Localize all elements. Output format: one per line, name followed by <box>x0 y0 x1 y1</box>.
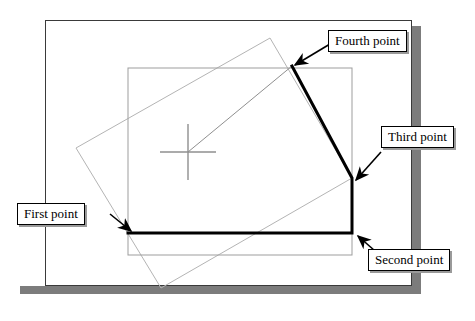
rubber-band-line <box>188 66 292 152</box>
drawn-polyline <box>128 66 352 233</box>
figure-screenshot: Fourth point Third point Second point Fi… <box>0 0 475 321</box>
callout-fourth-point: Fourth point <box>328 30 407 52</box>
reference-rectangle <box>128 68 352 255</box>
fourth-point-arrow <box>295 44 330 65</box>
callout-first-point: First point <box>17 203 85 225</box>
callout-second-point: Second point <box>368 249 450 271</box>
rotated-rectangle <box>76 38 352 288</box>
third-point-arrow <box>356 152 381 180</box>
callout-third-point: Third point <box>381 126 454 148</box>
